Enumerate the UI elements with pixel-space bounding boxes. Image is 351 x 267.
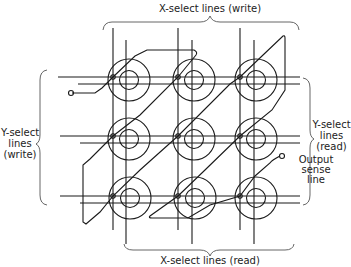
label-line: Y-select bbox=[312, 119, 351, 130]
label-line: (write) bbox=[0, 149, 40, 160]
output-terminal bbox=[280, 154, 285, 159]
label-line: (read) bbox=[312, 141, 351, 152]
label-line: lines bbox=[312, 130, 351, 141]
x-select-write-label: X-select lines (write) bbox=[110, 3, 310, 14]
x-select-read-label: X-select lines (read) bbox=[120, 255, 300, 266]
output-sense-line-label: Output sense line bbox=[298, 155, 334, 185]
label-line: lines bbox=[0, 138, 40, 149]
y-select-read-label: Y-select lines (read) bbox=[312, 119, 351, 152]
top-bracket bbox=[103, 16, 299, 30]
y-select-write-label: Y-select lines (write) bbox=[0, 127, 40, 160]
label-line: line bbox=[298, 175, 334, 185]
core-memory-diagram bbox=[0, 0, 351, 267]
label-line: Y-select bbox=[0, 127, 40, 138]
